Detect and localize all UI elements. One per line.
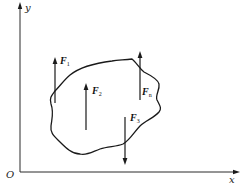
force-F2: F2 (84, 83, 102, 130)
y-axis-label: y (24, 2, 31, 13)
coordinate-axes: y x O (6, 2, 240, 185)
parallel-force-diagram: y x O F1 F2 F3 Fn (0, 0, 246, 189)
force-Fn-arrowhead (138, 51, 143, 58)
force-Fn-label: Fn (141, 86, 152, 98)
rigid-body-outline (50, 59, 160, 155)
force-F3: F3 (123, 112, 140, 165)
x-axis-label: x (229, 174, 235, 185)
force-F1-label: F1 (59, 55, 70, 67)
force-F2-arrowhead (84, 83, 89, 90)
force-F2-label: F2 (91, 85, 102, 97)
origin-label: O (6, 169, 14, 180)
force-F3-label: F3 (129, 112, 140, 124)
force-F3-arrowhead (123, 158, 128, 165)
force-F1-arrowhead (53, 57, 58, 64)
force-F1: F1 (53, 55, 70, 103)
y-axis-arrowhead (18, 2, 22, 9)
